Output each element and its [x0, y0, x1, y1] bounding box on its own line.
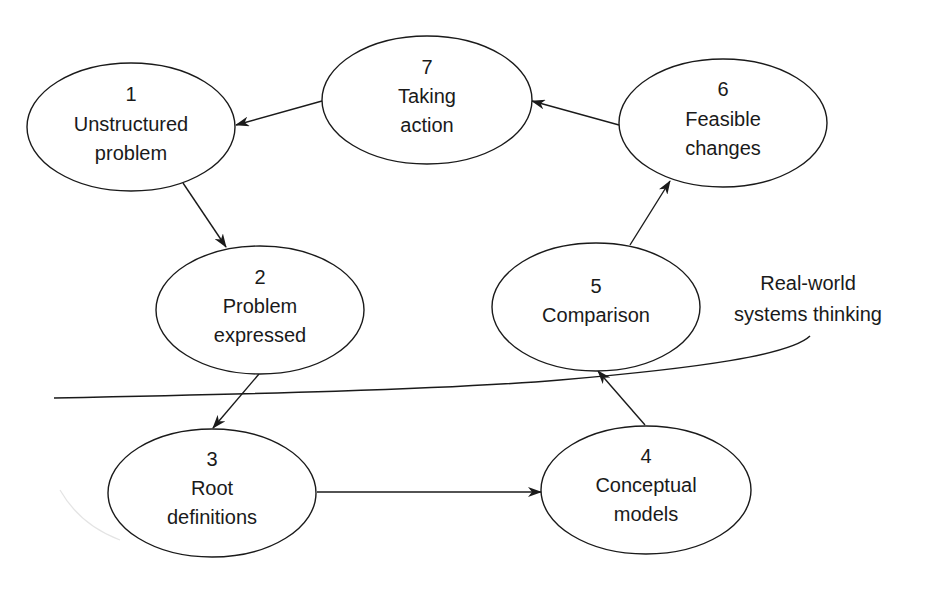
- node-label-line2: problem: [95, 142, 167, 164]
- node-number: 1: [125, 83, 136, 105]
- node-root-definitions: 3 Root definitions: [108, 429, 316, 557]
- node-number: 5: [590, 275, 601, 297]
- boundary-label-line1: Real-world: [760, 272, 856, 294]
- node-label-line1: Root: [191, 477, 234, 499]
- node-label-line1: Taking: [398, 85, 456, 107]
- node-problem-expressed: 2 Problem expressed: [156, 246, 364, 374]
- node-number: 6: [717, 78, 728, 100]
- node-label-line1: Unstructured: [74, 113, 189, 135]
- edge-7-to-1: [236, 101, 322, 125]
- node-label-line2: changes: [685, 137, 761, 159]
- node-label-line2: action: [400, 114, 453, 136]
- boundary-label-line2: systems thinking: [734, 303, 882, 325]
- edge-1-to-2: [183, 183, 226, 247]
- real-world-systems-thinking-divider: [54, 336, 810, 398]
- node-label-line1: Comparison: [542, 304, 650, 326]
- node-feasible-changes: 6 Feasible changes: [619, 59, 827, 187]
- node-number: 2: [254, 266, 265, 288]
- node-comparison: 5 Comparison: [492, 243, 700, 371]
- node-number: 4: [640, 445, 651, 467]
- boundary-label: Real-world systems thinking: [734, 272, 882, 325]
- ssm-diagram: 1 Unstructured problem 2 Problem express…: [0, 0, 936, 593]
- edge-2-to-3: [213, 374, 259, 428]
- node-taking-action: 7 Taking action: [322, 36, 532, 164]
- node-label-line2: expressed: [214, 324, 306, 346]
- edge-4-to-5: [598, 371, 645, 425]
- node-label-line1: Feasible: [685, 108, 761, 130]
- node-label-line2: models: [614, 503, 678, 525]
- edge-6-to-7: [532, 101, 619, 125]
- node-label-line2: definitions: [167, 506, 257, 528]
- node-label-line1: Problem: [223, 295, 297, 317]
- node-conceptual-models: 4 Conceptual models: [541, 426, 751, 554]
- node-label-line1: Conceptual: [595, 474, 696, 496]
- node-number: 7: [421, 56, 432, 78]
- node-number: 3: [206, 448, 217, 470]
- edge-5-to-6: [630, 181, 670, 245]
- node-unstructured-problem: 1 Unstructured problem: [27, 63, 235, 191]
